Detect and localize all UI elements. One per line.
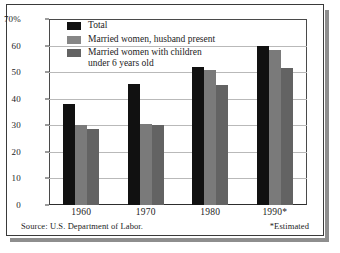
legend-label: Married women with children under 6 year… xyxy=(88,47,202,69)
figure-shadow-bottom xyxy=(10,238,329,242)
figure-shadow-right xyxy=(325,10,329,242)
y-tick-label: 30 xyxy=(12,120,21,130)
y-tick-label: 10 xyxy=(12,173,21,183)
y-tick-mark xyxy=(45,98,49,99)
y-tick-mark xyxy=(45,178,49,179)
chart-figure: 010203040506070% 1960197019801990* Total… xyxy=(6,4,324,236)
gridline xyxy=(49,125,307,126)
x-axis-label: 1960 xyxy=(55,207,107,217)
y-tick-label: 0 xyxy=(16,200,21,210)
legend-swatch-husband-present xyxy=(67,36,81,44)
x-axis-label: 1980 xyxy=(184,207,236,217)
legend-swatch-total xyxy=(67,22,81,30)
y-tick-label: 70% xyxy=(4,14,21,24)
gridline xyxy=(49,152,307,153)
x-axis-labels: 1960197019801990* xyxy=(49,207,307,217)
y-tick-mark xyxy=(45,72,49,73)
y-tick-mark xyxy=(45,151,49,152)
y-tick-label: 40 xyxy=(12,94,21,104)
legend-item: Total xyxy=(67,20,215,31)
legend-label: Total xyxy=(88,20,107,31)
gridline xyxy=(49,99,307,100)
source-note: Source: U.S. Department of Labor. xyxy=(21,221,143,231)
y-tick-mark xyxy=(45,205,49,206)
estimated-note: *Estimated xyxy=(270,221,309,231)
y-tick-mark xyxy=(45,19,49,20)
y-tick-mark xyxy=(45,125,49,126)
gridline xyxy=(49,178,307,179)
y-tick-mark xyxy=(45,45,49,46)
x-axis-label: 1990* xyxy=(249,207,301,217)
legend-item: Married women, husband present xyxy=(67,34,215,45)
y-tick-label: 20 xyxy=(12,147,21,157)
legend-item: Married women with children under 6 year… xyxy=(67,47,215,69)
chart-legend: TotalMarried women, husband presentMarri… xyxy=(67,20,215,72)
x-axis-label: 1970 xyxy=(120,207,172,217)
legend-label: Married women, husband present xyxy=(88,34,215,45)
gridline xyxy=(49,72,307,73)
legend-swatch-children-under-6 xyxy=(67,49,81,57)
y-tick-label: 60 xyxy=(12,41,21,51)
y-tick-label: 50 xyxy=(12,67,21,77)
